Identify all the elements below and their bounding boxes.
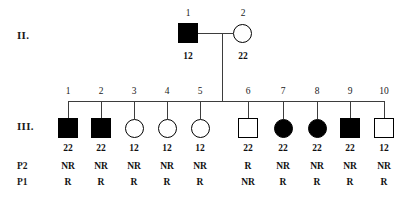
p2-value-iii-2: NR [86,161,116,171]
p2-value-iii-1: NR [53,161,83,171]
individual-symbol-iii-1[interactable] [58,118,78,138]
individual-symbol-iii-2[interactable] [91,118,111,138]
individual-symbol-iii-5[interactable] [191,119,210,138]
sibship-drop-iii-5 [200,101,201,119]
p1-value-iii-8: R [302,177,332,187]
p1-value-iii-2: R [86,177,116,187]
p1-value-iii-10: R [369,177,399,187]
sibship-drop-iii-4 [167,101,168,119]
p1-value-iii-9: R [335,177,365,187]
p2-value-iii-10: NR [369,161,399,171]
p1-value-iii-5: R [185,177,215,187]
generation-label-ii: II. [17,29,29,41]
mating-line-ii [198,33,233,34]
individual-symbol-iii-9[interactable] [340,118,360,138]
individual-symbol-iii-7[interactable] [274,119,293,138]
individual-id-iii-1: 1 [58,86,78,96]
individual-symbol-iii-4[interactable] [158,119,177,138]
p1-value-iii-6: NR [233,177,263,187]
individual-id-iii-4: 4 [157,86,177,96]
sibship-drop-iii-3 [134,101,135,119]
individual-symbol-iii-10[interactable] [374,118,394,138]
individual-id-iii-8: 8 [307,86,327,96]
row-label-p1: P1 [17,177,28,187]
individual-symbol-iii-6[interactable] [238,118,258,138]
individual-id-ii-1: 1 [178,8,198,18]
p2-value-iii-8: NR [302,161,332,171]
genotype-ii-2: 22 [228,51,258,61]
p1-value-iii-7: R [268,177,298,187]
individual-symbol-ii-1[interactable] [178,23,198,43]
generation-label-iii: III. [17,120,34,132]
p2-value-iii-4: NR [152,161,182,171]
genotype-iii-9: 22 [335,143,365,153]
sibship-drop-iii-7 [283,101,284,119]
genotype-iii-5: 12 [185,143,215,153]
individual-id-iii-10: 10 [374,86,394,96]
p1-value-iii-1: R [53,177,83,187]
sibship-line [68,101,384,102]
p2-value-iii-9: NR [335,161,365,171]
p2-value-iii-5: NR [185,161,215,171]
p2-value-iii-7: NR [268,161,298,171]
sibship-drop-iii-8 [317,101,318,119]
genotype-iii-3: 12 [119,143,149,153]
genotype-ii-1: 12 [173,51,203,61]
row-label-p2: P2 [17,161,28,171]
genotype-iii-10: 12 [369,143,399,153]
individual-id-ii-2: 2 [233,8,253,18]
genotype-iii-4: 12 [152,143,182,153]
individual-symbol-iii-3[interactable] [125,119,144,138]
sibship-drop-iii-2 [101,101,102,118]
individual-id-iii-6: 6 [238,86,258,96]
genotype-iii-2: 22 [86,143,116,153]
individual-id-iii-9: 9 [340,86,360,96]
p1-value-iii-4: R [152,177,182,187]
pedigree-chart: II. 1 12 2 22 III. 1 22 NR R 2 22 NR R 3… [0,0,416,201]
sibship-drop-iii-9 [350,101,351,118]
individual-id-iii-5: 5 [190,86,210,96]
descent-line [222,33,223,101]
individual-id-iii-3: 3 [124,86,144,96]
sibship-drop-iii-6 [248,101,249,118]
genotype-iii-8: 22 [302,143,332,153]
genotype-iii-7: 22 [268,143,298,153]
genotype-iii-1: 22 [53,143,83,153]
individual-id-iii-7: 7 [273,86,293,96]
p2-value-iii-3: NR [119,161,149,171]
genotype-iii-6: 22 [233,143,263,153]
p2-value-iii-6: R [233,161,263,171]
individual-symbol-ii-2[interactable] [233,24,252,43]
sibship-drop-iii-10 [384,101,385,118]
sibship-drop-iii-1 [68,101,69,118]
individual-symbol-iii-8[interactable] [308,119,327,138]
individual-id-iii-2: 2 [91,86,111,96]
p1-value-iii-3: R [119,177,149,187]
